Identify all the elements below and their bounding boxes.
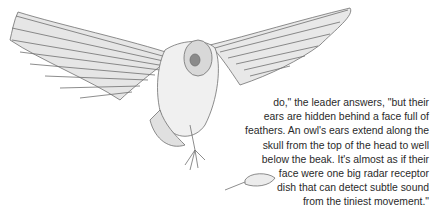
passage-line: below the beak. It's almost as if their: [189, 153, 429, 167]
passage-line: do," the leader answers, "but their: [189, 96, 429, 110]
passage-line: ears are hidden behind a face full of: [189, 110, 429, 124]
passage-line: feathers. An owl's ears extend along the: [189, 124, 429, 138]
passage-line: dish that can detect subtle sound: [189, 181, 429, 195]
passage-line: skull from the top of the head to well: [189, 139, 429, 153]
passage-line: face were one big radar receptor: [189, 167, 429, 181]
passage-text: do," the leader answers, "but their ears…: [189, 96, 429, 210]
passage-line: from the tiniest movement.": [189, 195, 429, 209]
